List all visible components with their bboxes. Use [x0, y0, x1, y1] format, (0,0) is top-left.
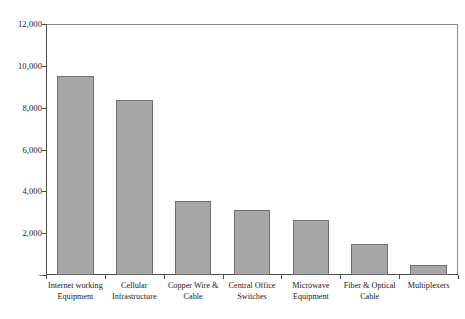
plot-frame-right	[457, 24, 458, 275]
x-axis-tick-mark	[458, 275, 459, 279]
x-axis-tick-mark	[46, 275, 47, 279]
bar[interactable]	[116, 100, 152, 275]
x-axis-category-label: Multiplexers	[399, 281, 458, 292]
x-axis-tick-mark	[223, 275, 224, 279]
y-axis-tick-mark	[42, 108, 46, 109]
y-axis-tick-label: 8,000	[22, 103, 42, 113]
x-axis-category-label: Internet working Equipment	[46, 281, 105, 302]
x-axis-category-label: Cellular Infrastructure	[105, 281, 164, 302]
y-axis-line	[46, 24, 47, 275]
y-axis-tick-mark	[42, 275, 46, 276]
y-axis-tick-label: 12,000	[18, 19, 42, 29]
bar[interactable]	[234, 210, 270, 275]
x-axis-category-label: Copper Wire & Cable	[164, 281, 223, 302]
x-axis-category-label: Central Office Switches	[223, 281, 282, 302]
bar[interactable]	[293, 220, 329, 275]
x-axis-tick-mark	[164, 275, 165, 279]
y-axis-tick-label: 2,000	[22, 228, 42, 238]
bar[interactable]	[351, 244, 387, 275]
y-axis-tick-mark	[42, 66, 46, 67]
y-axis-tick-mark	[42, 150, 46, 151]
x-axis-tick-mark	[340, 275, 341, 279]
y-axis-tick-label: 6,000	[22, 145, 42, 155]
y-axis-tick-label: 10,000	[18, 61, 42, 71]
bar-chart-figure: -2,0004,0006,0008,00010,00012,000 Intern…	[0, 0, 465, 319]
x-axis-labels: Internet working EquipmentCellular Infra…	[46, 281, 458, 307]
x-axis-category-label: Microwave Equipment	[281, 281, 340, 302]
x-axis-tick-mark	[399, 275, 400, 279]
plot-area	[46, 24, 458, 275]
y-axis-tick-label: 4,000	[22, 186, 42, 196]
y-axis-tick-mark	[42, 24, 46, 25]
bar[interactable]	[175, 201, 211, 275]
x-axis-tick-mark	[105, 275, 106, 279]
bar[interactable]	[57, 76, 93, 275]
bar[interactable]	[410, 265, 446, 275]
x-axis-category-label: Fiber & Optical Cable	[340, 281, 399, 302]
y-axis-tick-mark	[42, 191, 46, 192]
x-axis-tick-mark	[281, 275, 282, 279]
y-axis-labels: -2,0004,0006,0008,00010,00012,000	[0, 0, 42, 319]
y-axis-tick-mark	[42, 233, 46, 234]
plot-frame-top	[46, 24, 458, 25]
